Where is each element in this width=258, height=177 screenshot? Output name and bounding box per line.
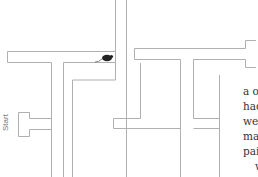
- article-text: a one had t went maps pair c wi: [243, 84, 258, 174]
- maze-walls: [0, 0, 258, 177]
- maze-illustration: Start: [0, 0, 258, 177]
- text-line: had t: [243, 99, 258, 114]
- text-line: maps: [243, 129, 258, 144]
- start-label: Start: [1, 114, 10, 131]
- mouse-icon: [95, 55, 113, 62]
- text-line: a one: [243, 84, 258, 99]
- text-line: wi: [243, 159, 258, 174]
- text-line: pair c: [243, 144, 258, 159]
- text-line: went: [243, 114, 258, 129]
